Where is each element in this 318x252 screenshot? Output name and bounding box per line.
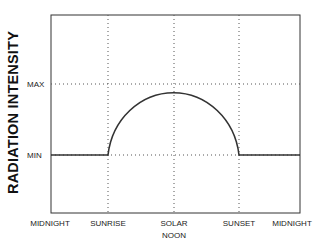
plot-frame <box>51 15 300 213</box>
y-tick-min: MIN <box>27 151 42 160</box>
y-axis-label: RADIATION INTENSITY <box>5 31 21 194</box>
x-tick-noon: NOON <box>144 230 204 241</box>
x-tick-midnight-end: MIDNIGHT <box>262 218 318 229</box>
grid-lines <box>51 15 300 213</box>
radiation-chart <box>0 0 318 252</box>
intensity-curve <box>51 93 300 155</box>
y-tick-max: MAX <box>27 80 44 89</box>
x-tick-solar: SOLAR <box>144 218 204 229</box>
x-tick-sunrise: SUNRISE <box>78 218 138 229</box>
x-tick-midnight-start: MIDNIGHT <box>20 218 80 229</box>
x-tick-sunset: SUNSET <box>209 218 269 229</box>
